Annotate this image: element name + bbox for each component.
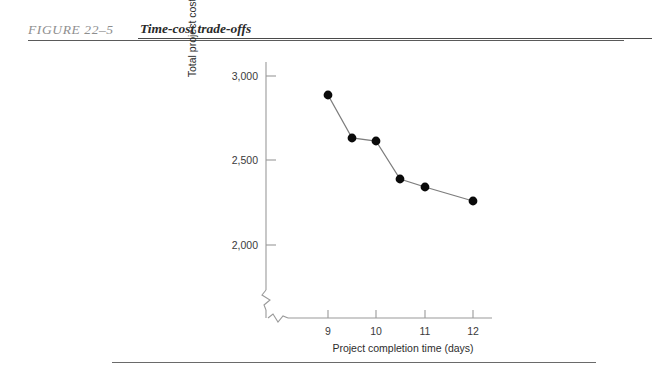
chart-plot-area: 3,000 2,500 2,000 9 10 11 12 Total proje… — [0, 0, 652, 371]
line-chart-svg — [0, 0, 652, 371]
data-series-line — [328, 95, 473, 201]
y-tick-label-2500: 2,500 — [218, 154, 258, 166]
footer-rule — [112, 362, 596, 363]
y-tick-label-2000: 2,000 — [218, 239, 258, 251]
x-tick-label-11: 11 — [420, 325, 431, 337]
x-tick-label-12: 12 — [467, 325, 479, 337]
x-tick-label-9: 9 — [325, 325, 331, 337]
y-axis-break-icon — [262, 290, 270, 310]
x-axis-label: Project completion time (days) — [268, 342, 538, 354]
data-point-marker — [421, 183, 430, 192]
data-point-marker — [469, 197, 478, 206]
y-axis-label: Total project cost ($) — [186, 0, 198, 95]
data-point-marker — [324, 91, 333, 100]
data-point-marker — [348, 134, 357, 143]
data-point-marker — [372, 137, 381, 146]
x-axis-break-icon — [268, 314, 288, 322]
data-point-marker — [396, 175, 405, 184]
y-tick-label-3000: 3,000 — [218, 70, 258, 82]
x-tick-label-10: 10 — [370, 325, 382, 337]
